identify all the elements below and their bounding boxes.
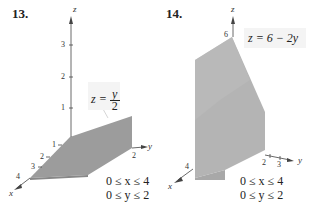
figure-13-number: 13.: [12, 6, 28, 22]
figure-13-constraint-y: 0 ≤ y ≤ 2: [106, 188, 149, 202]
figure-13-z-tick-3: 3: [61, 40, 65, 49]
figure-14-z-axis-label: z: [231, 4, 235, 14]
figure-13-solid: [30, 116, 132, 180]
figure-14-constraint-x: 0 ≤ x ≤ 4: [240, 174, 283, 188]
figure-14-constraint-y: 0 ≤ y ≤ 2: [240, 188, 283, 202]
figure-13-constraint-x: 0 ≤ x ≤ 4: [106, 174, 149, 188]
figure-13-x-axis-label: x: [9, 188, 13, 198]
figure-14-constraints: 0 ≤ x ≤ 4 0 ≤ y ≤ 2: [240, 174, 283, 202]
figure-14-number: 14.: [166, 6, 182, 22]
figure-13-equation-lhs: z =: [91, 92, 107, 106]
figure-13-constraints: 0 ≤ x ≤ 4 0 ≤ y ≤ 2: [106, 174, 149, 202]
figure-13-z-tick-2: 2: [61, 72, 65, 81]
figure-13-x-tick-3: 3: [31, 162, 35, 171]
figure-13-equation: z = y 2: [91, 89, 120, 112]
figure-14-z-tick-6: 6: [224, 30, 228, 39]
figure-13-y-tick-2: 2: [132, 151, 136, 160]
figure-13-z-axis-label: z: [73, 4, 77, 14]
figure-14-y-axis-label: y: [298, 155, 302, 165]
figure-14-x-axis-label: x: [168, 181, 172, 191]
figure-13-x-tick-1: 1: [52, 140, 56, 149]
figure-13-y-axis-label: y: [148, 141, 152, 151]
figure-14-equation-box: z = 6 − 2y: [244, 28, 306, 48]
figure-14-y-tick-2: 2: [262, 158, 266, 167]
figure-13-z-tick-1: 1: [61, 103, 65, 112]
figure-14-x-tick-4: 4: [185, 162, 189, 171]
figure-14-y-tick-3: 3: [277, 160, 281, 169]
figure-13-x-tick-2: 2: [40, 152, 44, 161]
figure-13-equation-box: z = y 2: [88, 82, 120, 110]
figure-13-x-tick-4: 4: [16, 172, 20, 181]
figure-13-equation-denominator: 2: [112, 101, 118, 112]
figure-13-equation-fraction: y 2: [110, 89, 120, 112]
figure-14-equation: z = 6 − 2y: [248, 31, 298, 46]
figure-14-solid: [195, 37, 265, 180]
